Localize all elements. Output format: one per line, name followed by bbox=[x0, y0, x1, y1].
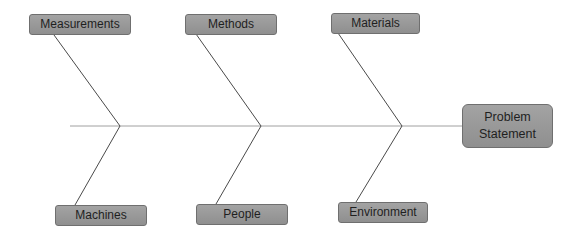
cause-label: Machines bbox=[75, 208, 126, 223]
cause-box-environment: Environment bbox=[338, 202, 428, 223]
cause-box-machines: Machines bbox=[55, 205, 147, 226]
problem-line-1: Problem bbox=[484, 109, 531, 126]
bone-materials bbox=[338, 33, 402, 126]
cause-box-people: People bbox=[196, 204, 288, 225]
cause-label: Methods bbox=[208, 17, 254, 32]
bone-machines bbox=[75, 126, 120, 205]
problem-statement-box: Problem Statement bbox=[462, 104, 553, 148]
cause-label: Measurements bbox=[40, 17, 119, 32]
bone-methods bbox=[196, 34, 261, 126]
cause-label: Environment bbox=[349, 205, 416, 220]
bone-people bbox=[216, 126, 261, 204]
cause-box-measurements: Measurements bbox=[29, 14, 131, 35]
cause-box-methods: Methods bbox=[185, 14, 277, 35]
bone-environment bbox=[356, 126, 402, 202]
problem-line-2: Statement bbox=[479, 126, 536, 143]
bone-measurements bbox=[54, 35, 120, 126]
cause-label: People bbox=[223, 207, 260, 222]
cause-label: Materials bbox=[351, 16, 400, 31]
cause-box-materials: Materials bbox=[331, 13, 420, 34]
